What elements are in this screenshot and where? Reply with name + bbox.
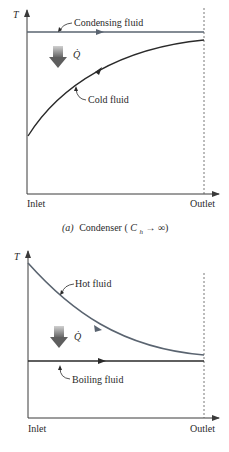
leader-arrow-icon [58,365,62,370]
flow-direction-arrow-icon [96,29,104,35]
caption-subscript: h [139,228,143,236]
outlet-label: Outlet [190,198,215,209]
y-axis-label: T [14,251,21,262]
heat-flow-arrow-icon [50,326,68,348]
flow-direction-arrow-icon [98,358,106,364]
inlet-label: Inlet [28,423,47,434]
evaporator-diagram: T Hot fluid Q̇ Boiling fluid Inlet Outle… [14,251,219,434]
hot-leader [62,284,74,293]
heat-exchanger-diagrams: T Condensing fluid Q̇ Cold fluid Inlet O… [0,0,229,452]
caption-c: C [130,222,137,233]
flow-direction-arrow-icon [95,67,102,75]
caption-prefix: (a) [62,222,74,234]
boiling-fluid-label: Boiling fluid [72,374,123,385]
caption-arrow: → [145,222,155,233]
inlet-label: Inlet [27,198,46,209]
cold-fluid-label: Cold fluid [88,94,129,105]
caption-infinity: ∞) [158,222,168,234]
leader-arrow-icon [60,290,64,295]
heat-rate-label: Q̇ [74,331,82,342]
outlet-label: Outlet [190,423,215,434]
condensing-fluid-label: Condensing fluid [74,17,143,28]
hot-fluid-label: Hot fluid [75,278,111,289]
caption-text: Condenser ( [79,222,128,234]
y-axis-label: T [13,9,20,20]
flow-direction-arrow-icon [94,325,102,332]
condenser-diagram: T Condensing fluid Q̇ Cold fluid Inlet O… [13,8,219,236]
heat-flow-arrow-icon [49,46,67,68]
caption: (a) Condenser ( C h → ∞) [62,222,168,236]
heat-rate-label: Q̇ [73,49,81,60]
